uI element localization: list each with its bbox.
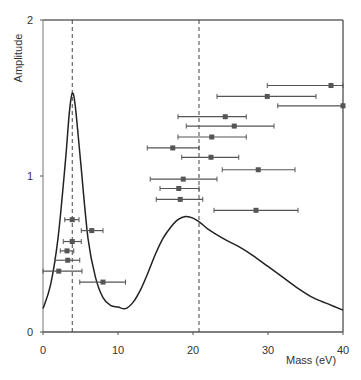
data-point — [214, 208, 298, 213]
data-point — [60, 248, 74, 253]
data-point — [80, 280, 126, 285]
x-tick-label: 40 — [337, 344, 349, 356]
data-point — [55, 258, 80, 263]
data-point — [182, 155, 239, 160]
data-point — [222, 167, 295, 172]
data-point — [178, 114, 246, 119]
y-tick-label: 1 — [27, 170, 33, 182]
chart: 010203040 012 Mass (eV) Amplitude — [0, 0, 361, 380]
data-point — [217, 94, 316, 99]
x-axis-label: Mass (eV) — [286, 354, 336, 366]
data-point — [160, 186, 199, 191]
data-point — [150, 177, 217, 182]
marker-square — [89, 228, 94, 233]
marker-square — [223, 114, 228, 119]
data-point — [156, 197, 203, 202]
data-point — [65, 217, 79, 222]
marker-square — [65, 248, 70, 253]
data-point — [278, 103, 346, 108]
data-points-with-error-bars — [43, 83, 346, 285]
marker-square — [209, 135, 214, 140]
marker-square — [176, 186, 181, 191]
data-point — [267, 83, 343, 88]
x-tick-label: 30 — [262, 344, 274, 356]
marker-square — [341, 103, 346, 108]
marker-square — [70, 217, 75, 222]
marker-square — [254, 208, 259, 213]
dashed-reference-lines — [72, 20, 199, 332]
marker-square — [256, 167, 261, 172]
data-point — [63, 239, 81, 244]
data-point — [43, 269, 82, 274]
y-axis-ticks: 012 — [27, 14, 43, 338]
marker-square — [65, 258, 70, 263]
marker-square — [178, 197, 183, 202]
data-point — [81, 228, 103, 233]
marker-square — [265, 94, 270, 99]
marker-square — [232, 124, 237, 129]
x-tick-label: 20 — [187, 344, 199, 356]
marker-square — [329, 83, 334, 88]
y-tick-label: 0 — [27, 326, 33, 338]
marker-square — [209, 155, 214, 160]
y-axis-label: Amplitude — [12, 34, 24, 83]
marker-square — [56, 269, 61, 274]
marker-square — [170, 145, 175, 150]
data-point — [178, 135, 246, 140]
x-tick-label: 0 — [40, 344, 46, 356]
marker-square — [101, 280, 106, 285]
marker-square — [181, 177, 186, 182]
x-tick-label: 10 — [112, 344, 124, 356]
chart-svg: 010203040 012 Mass (eV) Amplitude — [0, 0, 361, 380]
y-tick-label: 2 — [27, 14, 33, 26]
plot-frame — [43, 20, 343, 332]
data-point — [147, 145, 199, 150]
x-axis-ticks: 010203040 — [40, 332, 349, 356]
marker-square — [70, 239, 75, 244]
